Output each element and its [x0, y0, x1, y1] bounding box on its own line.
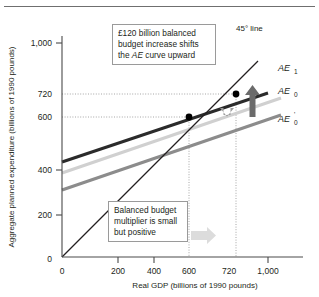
equilibrium-point-600	[186, 114, 193, 121]
callout-bottom-line2: multiplier is small	[114, 216, 183, 227]
callout-bottom-line1: Balanced budget	[114, 205, 183, 216]
x-tick-label-200: 200	[111, 266, 125, 276]
x-tick-label-400: 400	[147, 266, 161, 276]
svg-text:0: 0	[294, 91, 298, 98]
svg-text:AE: AE	[277, 114, 291, 124]
curve-ae0	[62, 98, 281, 173]
svg-text:AE: AE	[277, 86, 291, 96]
svg-text:1: 1	[294, 68, 298, 75]
y-tick-label-1000: 1,000	[31, 38, 53, 48]
x-tick-label-0: 0	[60, 266, 65, 276]
callout-top-line3: the AE curve upward	[118, 50, 211, 61]
equilibrium-point-720	[233, 91, 240, 98]
svg-text:AE: AE	[277, 63, 291, 73]
curve-label-ae0-prime: AE 0 '	[277, 111, 298, 126]
callout-bottom-line3: but positive	[114, 227, 183, 238]
figure-container: 1,000 720 600 400 200 0 0 200 400 600 72…	[0, 0, 319, 297]
y-tick-label-200: 200	[38, 210, 52, 220]
curve-label-ae0: AE 0	[277, 86, 298, 98]
callout-top-ae-italic: AE	[132, 50, 143, 60]
callout-top-line3-pre: the	[118, 50, 132, 60]
x-tick-label-720: 720	[222, 266, 236, 276]
callout-balanced-budget-multiplier: Balanced budget multiplier is small but …	[108, 201, 188, 242]
curve-label-ae1: AE 1	[277, 63, 298, 75]
y-tick-label-600: 600	[38, 112, 52, 122]
y-axis-title: Aggregate planned expenditure (billions …	[7, 46, 16, 247]
y-tick-label-720: 720	[38, 89, 52, 99]
callout-top-line2: budget increase shifts	[118, 39, 211, 50]
callout-budget-increase: £120 billion balanced budget increase sh…	[112, 24, 216, 65]
svg-text:': '	[294, 111, 295, 118]
x-axis-title: Real GDP (billions of 1990 pounds)	[132, 281, 258, 290]
line-45-label: 45° line	[236, 24, 263, 33]
x-tick-label-1000: 1,000	[257, 266, 279, 276]
y-tick-label-400: 400	[38, 165, 52, 175]
callout-top-line3-post: curve upward	[143, 50, 195, 60]
curve-ae1	[62, 93, 268, 162]
gdp-increase-arrow	[191, 227, 216, 244]
svg-text:0: 0	[294, 119, 298, 126]
y-tick-label-0: 0	[47, 254, 52, 264]
x-tick-label-600: 600	[182, 266, 196, 276]
callout-top-line1: £120 billion balanced	[118, 28, 211, 39]
